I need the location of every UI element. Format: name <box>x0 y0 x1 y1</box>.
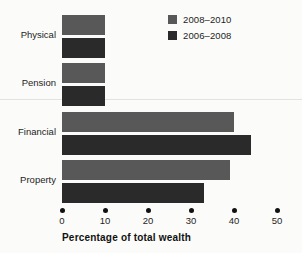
category-label-pension: Pension <box>0 77 56 88</box>
bar-financial-series-2 <box>62 135 251 155</box>
bar-physical-series-2 <box>62 38 105 58</box>
bar-pension-series-1 <box>62 63 105 83</box>
bar-financial-series-1 <box>62 112 234 132</box>
category-label-property: Property <box>0 174 56 185</box>
bar-pension-series-2 <box>62 86 105 106</box>
category-label-financial: Financial <box>0 126 56 137</box>
bar-chart: 2008–20102006–2008 PhysicalPensionFinanc… <box>0 0 302 253</box>
bar-property-series-1 <box>62 160 230 180</box>
x-axis-title: Percentage of total wealth <box>62 232 191 243</box>
category-label-physical: Physical <box>0 29 56 40</box>
bar-physical-series-1 <box>62 15 105 35</box>
plot-area: PhysicalPensionFinancialProperty <box>0 0 302 253</box>
bar-property-series-2 <box>62 183 204 203</box>
